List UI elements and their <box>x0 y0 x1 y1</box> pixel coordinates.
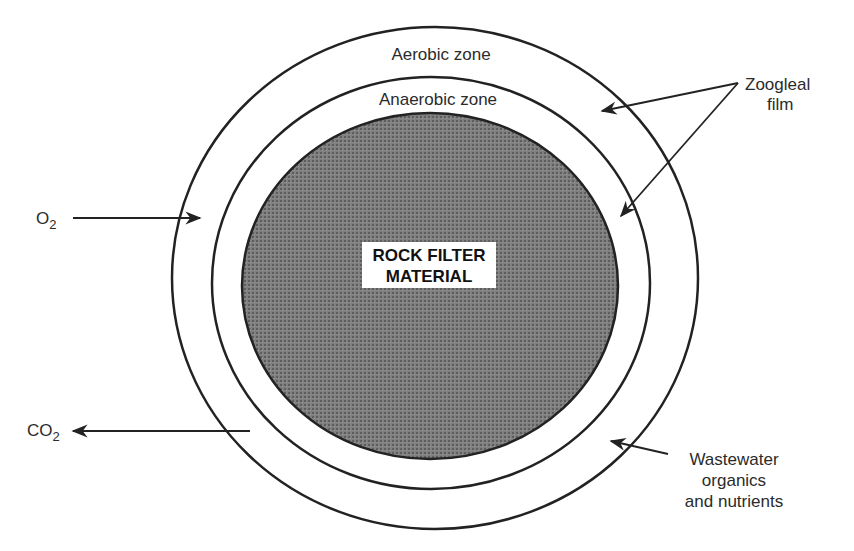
zoogleal-film-label-line2: film <box>767 95 793 114</box>
wastewater-label-line1: Wastewater <box>689 450 778 469</box>
trickling-filter-diagram: ROCK FILTER MATERIAL Aerobic zone Anaero… <box>0 0 854 551</box>
zoogleal-film-label-line1: Zoogleal <box>745 75 810 94</box>
anaerobic-zone-label: Anaerobic zone <box>379 90 497 109</box>
carbon-dioxide-label: CO2 <box>27 421 60 444</box>
core-label-line1: ROCK FILTER <box>372 246 485 265</box>
wastewater-label-line3: and nutrients <box>685 492 783 511</box>
oxygen-label: O2 <box>36 209 56 232</box>
aerobic-zone-label: Aerobic zone <box>391 45 490 64</box>
wastewater-label-line2: organics <box>702 471 766 490</box>
wastewater-arrow-icon <box>611 441 668 454</box>
core-label-line2: MATERIAL <box>386 267 473 286</box>
